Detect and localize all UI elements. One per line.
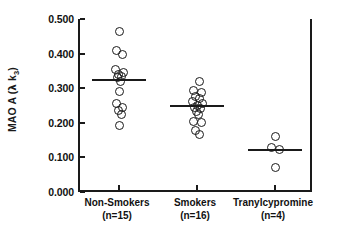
data-point bbox=[118, 50, 127, 59]
data-point bbox=[115, 121, 124, 130]
y-axis-title-main: MAO A ( bbox=[5, 91, 17, 132]
y-axis-tick-mark bbox=[80, 156, 85, 158]
x-axis-category-count: (n=16) bbox=[174, 209, 216, 222]
x-axis-category-label: Smokers(n=16) bbox=[174, 196, 216, 222]
y-axis-tick-mark bbox=[80, 122, 85, 124]
y-axis-tick-mark bbox=[80, 191, 85, 193]
x-axis-category-name: Smokers bbox=[174, 197, 216, 208]
mean-line bbox=[248, 149, 302, 151]
x-axis-category-count: (n=4) bbox=[233, 209, 313, 222]
data-point bbox=[271, 132, 280, 141]
y-axis-tick-mark bbox=[80, 87, 85, 89]
x-axis-category-name: Non-Smokers bbox=[84, 197, 149, 208]
y-axis-tick-label: 0.500 bbox=[32, 13, 74, 25]
data-point bbox=[195, 130, 204, 139]
data-point bbox=[115, 87, 124, 96]
x-axis-category-label: Non-Smokers(n=15) bbox=[84, 196, 149, 222]
y-axis-tick-label: 0.000 bbox=[32, 186, 74, 198]
y-axis-tick-mark bbox=[80, 18, 85, 20]
y-axis-tick-label: 0.400 bbox=[32, 48, 74, 60]
x-axis-tick-mark bbox=[196, 185, 198, 190]
x-axis-tick-mark bbox=[274, 185, 276, 190]
y-axis-tick-label: 0.300 bbox=[32, 82, 74, 94]
y-axis-title: MAO A (λ k3) bbox=[0, 0, 26, 200]
y-axis-tick-label: 0.200 bbox=[32, 117, 74, 129]
y-axis-tick-labels: 0.5000.4000.3000.2000.1000.000 bbox=[30, 0, 74, 238]
chart-figure: MAO A (λ k3) 0.5000.4000.3000.2000.1000.… bbox=[0, 0, 338, 238]
data-point bbox=[195, 77, 204, 86]
mean-line bbox=[92, 79, 146, 81]
y-axis-tick-label: 0.100 bbox=[32, 151, 74, 163]
x-axis-category-name: Tranylcypromine bbox=[233, 197, 313, 208]
plot-area bbox=[78, 19, 312, 192]
y-axis-title-close: ) bbox=[5, 68, 17, 72]
y-axis-tick-mark bbox=[80, 53, 85, 55]
data-point bbox=[117, 110, 126, 119]
x-axis-category-label: Tranylcypromine(n=4) bbox=[233, 196, 313, 222]
mean-line bbox=[170, 105, 224, 107]
y-axis-title-text: MAO A (λ k3) bbox=[5, 68, 20, 133]
x-axis-category-labels: Non-Smokers(n=15)Smokers(n=16)Tranylcypr… bbox=[78, 196, 312, 238]
x-axis-tick-mark bbox=[118, 185, 120, 190]
x-axis-category-count: (n=15) bbox=[84, 209, 149, 222]
lambda-symbol: λ bbox=[5, 84, 17, 91]
data-point bbox=[271, 163, 280, 172]
data-point bbox=[115, 27, 124, 36]
y-axis-title-subscript: 3 bbox=[12, 71, 21, 75]
y-axis-title-k: k bbox=[5, 75, 17, 84]
